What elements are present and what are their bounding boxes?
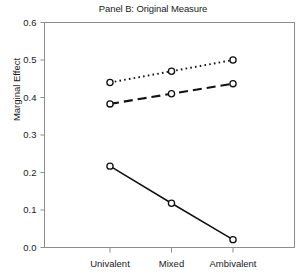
data-point-marker: [168, 68, 174, 74]
y-tick-label: 0.1: [23, 204, 36, 215]
x-tick-label: Univalent: [90, 258, 130, 269]
data-point-marker: [107, 101, 113, 107]
y-tick-label: 0.3: [23, 129, 36, 140]
plot-frame: [45, 23, 295, 248]
y-tick-label: 0.5: [23, 54, 36, 65]
data-point-marker: [107, 79, 113, 85]
data-point-marker: [230, 237, 236, 243]
chart-figure: Panel B: Original Measure Marginal Effec…: [0, 0, 306, 279]
data-series-group: [107, 57, 236, 243]
y-tick-label: 0.0: [23, 242, 36, 253]
x-axis-ticks: UnivalentMixedAmbivalent: [90, 248, 257, 269]
data-point-marker: [107, 163, 113, 169]
data-point-marker: [168, 91, 174, 97]
y-axis-ticks: 0.00.10.20.30.40.50.6: [23, 17, 44, 253]
y-tick-label: 0.4: [23, 92, 36, 103]
x-tick-label: Ambivalent: [210, 258, 257, 269]
plot-area: 0.00.10.20.30.40.50.6 UnivalentMixedAmbi…: [0, 0, 306, 279]
y-tick-label: 0.2: [23, 167, 36, 178]
data-point-marker: [230, 81, 236, 87]
data-point-marker: [230, 57, 236, 63]
data-point-marker: [168, 200, 174, 206]
y-tick-label: 0.6: [23, 17, 36, 28]
x-tick-label: Mixed: [159, 258, 184, 269]
